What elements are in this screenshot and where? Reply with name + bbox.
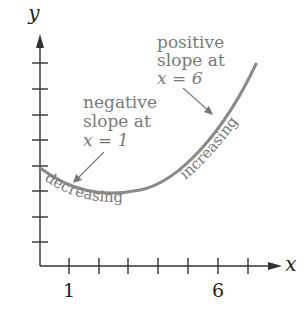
x-tick-label-6: 6 (212, 279, 224, 301)
negative-slope-annotation: negative slope at x = 1 (73, 92, 157, 183)
slope-chart: y 1 6 x decreasing increas (0, 0, 306, 320)
y-axis-label: y (27, 1, 40, 25)
neg-annotation-line3: x = 1 (83, 130, 128, 150)
pos-annotation-line3: x = 6 (157, 68, 203, 88)
neg-annotation-line1: negative (83, 92, 157, 112)
y-axis: y (27, 1, 48, 266)
increasing-label: increasing (176, 113, 241, 184)
x-axis-label: x (285, 252, 296, 276)
positive-slope-annotation: positive slope at x = 6 (157, 32, 225, 115)
neg-annotation-line2: slope at (83, 111, 151, 131)
x-tick-label-1: 1 (63, 279, 75, 301)
x-axis: 1 6 x (40, 252, 297, 301)
pos-annotation-line2: slope at (157, 50, 225, 70)
x-axis-arrow-icon (268, 262, 282, 270)
y-axis-arrow-icon (36, 34, 44, 48)
pos-annotation-line1: positive (157, 32, 224, 52)
chart-canvas: y 1 6 x decreasing increas (0, 0, 306, 320)
